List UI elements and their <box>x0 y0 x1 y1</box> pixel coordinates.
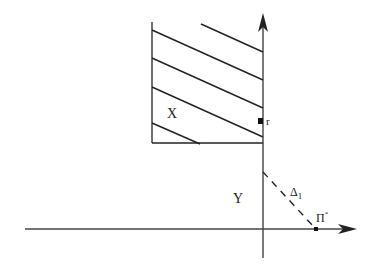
region-x-label: X <box>167 106 177 121</box>
point-pi-star-label: Π* <box>316 210 329 225</box>
point-r-label: r <box>266 115 270 127</box>
region-x-hatching <box>152 24 263 144</box>
delta-1-dashed-line <box>263 172 314 227</box>
point-r-marker <box>258 118 263 124</box>
region-y-label: Y <box>233 191 243 206</box>
point-pi-star-marker <box>314 227 318 231</box>
diagram-canvas: r Π* Δ1 X Y <box>0 0 370 268</box>
delta-1-label: Δ1 <box>290 185 302 201</box>
